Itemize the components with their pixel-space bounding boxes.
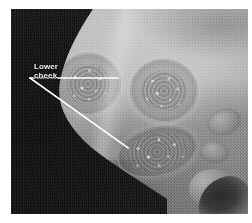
annotation-label-line-2: cheek <box>34 71 58 80</box>
clinical-photograph: Lower cheek <box>11 9 248 214</box>
annotation-label-lower-cheek: Lower cheek <box>34 62 58 80</box>
film-grain-overlay <box>11 9 248 214</box>
figure-root: Lower cheek <box>0 0 252 223</box>
annotation-label-line-1: Lower <box>34 62 58 71</box>
